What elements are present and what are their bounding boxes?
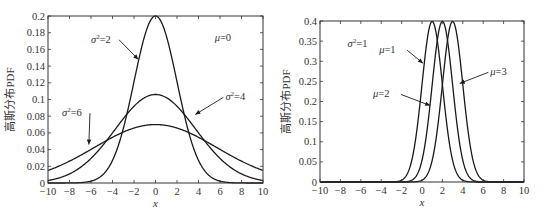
y-tick-label: 0 [40, 178, 45, 189]
x-tick-label: 2 [440, 185, 445, 196]
annotation-label: μ=0 [214, 32, 231, 43]
annotation-label: σ2=1 [348, 37, 368, 49]
x-tick-label: 10 [519, 185, 530, 196]
annotation-label: σ2=6 [62, 106, 82, 118]
left-plot-variance-comparison: −10−8−6−4−2024681000.020.040.060.080.10.… [3, 11, 268, 210]
y-tick-label: 0.04 [27, 144, 46, 155]
x-tick-label: 10 [258, 186, 269, 197]
y-tick-label: 0 [312, 177, 317, 188]
x-tick-label: 6 [481, 185, 486, 196]
x-tick-label: −4 [107, 186, 119, 197]
x-tick-label: −6 [355, 185, 366, 196]
x-tick-label: −8 [335, 185, 346, 196]
x-tick-label: −2 [396, 185, 407, 196]
x-tick-label: −4 [376, 185, 388, 196]
x-tick-label: 0 [153, 186, 158, 197]
y-tick-label: 0.35 [299, 36, 317, 47]
y-tick-label: 0.1 [304, 136, 317, 147]
y-tick-label: 0.16 [27, 44, 45, 55]
y-tick-label: 0.06 [27, 127, 45, 138]
y-tick-label: 0.02 [27, 161, 45, 172]
figure-canvas: −10−8−6−4−2024681000.020.040.060.080.10.… [0, 0, 545, 220]
x-tick-label: 4 [460, 185, 466, 196]
y-axis-label: 高斯分布PDF [279, 69, 292, 133]
annotation-label: μ=2 [372, 88, 389, 99]
y-tick-label: 0.14 [27, 61, 46, 72]
y-tick-label: 0.2 [32, 11, 45, 22]
y-tick-label: 0.18 [27, 27, 45, 38]
x-tick-label: 8 [501, 185, 506, 196]
y-tick-label: 0.12 [27, 77, 45, 88]
annotation-label: σ2=2 [91, 33, 111, 45]
y-tick-label: 0.08 [27, 111, 45, 122]
y-axis-label: 高斯分布PDF [3, 67, 16, 131]
arrowhead-icon [87, 140, 91, 145]
annotation-label: μ=1 [378, 44, 395, 55]
x-axis-label: x [152, 197, 158, 209]
y-tick-label: 0.25 [299, 76, 317, 87]
x-axis-label: x [419, 196, 425, 208]
x-tick-label: 0 [419, 185, 424, 196]
x-tick-label: 2 [174, 186, 179, 197]
x-tick-label: 8 [239, 186, 244, 197]
arrowhead-icon [195, 110, 200, 114]
y-tick-label: 0.2 [304, 96, 317, 107]
x-tick-label: 6 [217, 186, 222, 197]
x-tick-label: −6 [85, 186, 96, 197]
y-tick-label: 0.05 [299, 156, 317, 167]
y-tick-label: 0.15 [299, 116, 317, 127]
x-tick-label: 4 [196, 186, 202, 197]
x-tick-label: −8 [64, 186, 75, 197]
arrowhead-icon [425, 102, 430, 106]
y-tick-label: 0.3 [304, 56, 317, 67]
x-tick-label: −2 [128, 186, 139, 197]
y-tick-label: 0.1 [32, 94, 45, 105]
y-tick-label: 0.4 [304, 16, 318, 27]
curve-6 [48, 125, 263, 171]
right-plot-mean-comparison: −10−8−6−4−2024681000.050.10.150.20.250.3… [279, 16, 529, 209]
annotation-label: μ=3 [489, 66, 506, 77]
annotation-label: σ2=4 [225, 90, 246, 102]
